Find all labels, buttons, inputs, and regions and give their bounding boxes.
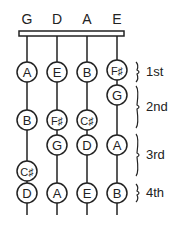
note-marker: F♯ (47, 110, 67, 130)
brace-icon (136, 134, 139, 176)
note-marker: G (47, 135, 67, 155)
note-label: F♯ (111, 65, 124, 77)
finger-position-braces: 1st2nd3rd4th (136, 62, 168, 202)
note-label: D (22, 186, 31, 201)
brace-icon (136, 86, 139, 128)
string-labels: GDAE (22, 11, 122, 27)
note-marker: B (17, 110, 37, 130)
note-label: G (52, 138, 62, 153)
finger-label-2nd: 2nd (146, 99, 168, 114)
nut-bar (19, 31, 124, 36)
note-label: E (53, 65, 62, 80)
note-label: C♯ (20, 166, 34, 178)
note-label: C♯ (80, 115, 94, 127)
note-marker: D (17, 183, 37, 203)
note-marker: E (47, 62, 67, 82)
note-label: F♯ (51, 115, 64, 127)
note-marker: B (77, 62, 97, 82)
note-marker: D (77, 135, 97, 155)
note-marker: A (47, 183, 67, 203)
note-label: B (113, 186, 122, 201)
string-lines (27, 36, 117, 215)
brace-icon (136, 184, 139, 202)
note-label: A (23, 65, 32, 80)
note-marker: C♯ (17, 161, 37, 181)
note-marker: G (107, 85, 127, 105)
string-label-d: D (52, 11, 62, 27)
note-marker: A (107, 135, 127, 155)
violin-fingering-diagram: GDAE ABC♯DEF♯GABC♯DEF♯GAB 1st2nd3rd4th (0, 0, 186, 232)
string-label-a: A (82, 11, 92, 27)
note-label: A (53, 186, 62, 201)
note-marker: C♯ (77, 110, 97, 130)
finger-label-4th: 4th (146, 185, 164, 200)
finger-label-1st: 1st (146, 64, 164, 79)
brace-icon (136, 62, 139, 82)
note-marker: F♯ (107, 60, 127, 80)
note-label: E (83, 186, 92, 201)
note-label: G (112, 88, 122, 103)
string-label-g: G (22, 11, 33, 27)
note-marker: E (77, 183, 97, 203)
note-label: B (23, 113, 32, 128)
note-label: D (82, 138, 91, 153)
note-label: A (113, 138, 122, 153)
note-marker: B (107, 183, 127, 203)
note-marker: A (17, 62, 37, 82)
finger-label-3rd: 3rd (146, 147, 165, 162)
note-label: B (83, 65, 92, 80)
note-circles: ABC♯DEF♯GABC♯DEF♯GAB (17, 60, 127, 203)
string-label-e: E (112, 11, 121, 27)
